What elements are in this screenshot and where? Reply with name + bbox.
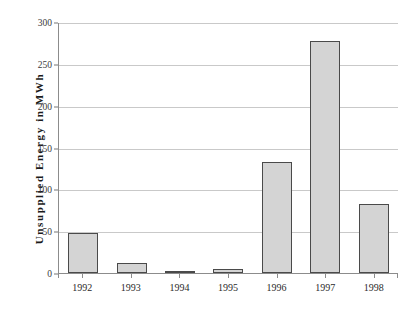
x-axis-tick-labels: 1992199319941995199619971998 [58, 282, 398, 300]
x-tick-mark [179, 274, 180, 278]
bar-slot [350, 23, 398, 273]
x-tick-slot [58, 274, 107, 279]
x-tick-mark [374, 274, 375, 278]
x-tick-mark [58, 274, 59, 278]
bar[interactable] [165, 271, 195, 273]
x-tick-slot [155, 274, 204, 279]
x-tick-mark [325, 274, 326, 278]
bar-slot [59, 23, 107, 273]
x-axis-tick-marks [58, 274, 398, 279]
bar[interactable] [359, 204, 389, 273]
bar-slot [156, 23, 204, 273]
bar-slot [204, 23, 252, 273]
bar-series [59, 23, 398, 273]
x-tick-mark [228, 274, 229, 278]
y-tick-label: 250 [38, 60, 52, 70]
bar[interactable] [213, 269, 243, 273]
bar-slot [301, 23, 349, 273]
bar[interactable] [68, 233, 98, 273]
x-tick-label: 1995 [204, 282, 253, 300]
x-tick-label: 1993 [107, 282, 156, 300]
x-tick-mark [131, 274, 132, 278]
bar[interactable] [262, 162, 292, 273]
y-axis-tick-labels: 050100150200250300 [26, 23, 58, 274]
y-tick-label: 300 [38, 18, 52, 28]
x-tick-slot [107, 274, 156, 279]
x-tick-mark [277, 274, 278, 278]
plot-area [58, 23, 398, 274]
x-tick-label: 1992 [58, 282, 107, 300]
y-tick-label: 0 [47, 269, 52, 279]
x-tick-label: 1998 [349, 282, 398, 300]
x-tick-mark [82, 274, 83, 278]
bar-slot [107, 23, 155, 273]
y-tick-label: 150 [38, 144, 52, 154]
bar-chart: Unsupplied Energy in MWh 050100150200250… [0, 0, 408, 317]
x-tick-slot [252, 274, 301, 279]
bar-slot [253, 23, 301, 273]
x-tick-label: 1997 [301, 282, 350, 300]
x-tick-label: 1994 [155, 282, 204, 300]
x-tick-label: 1996 [252, 282, 301, 300]
y-tick-label: 100 [38, 185, 52, 195]
bar[interactable] [310, 41, 340, 273]
y-tick-label: 50 [43, 227, 53, 237]
y-tick-label: 200 [38, 102, 52, 112]
x-tick-mark [397, 274, 398, 278]
x-tick-slot [349, 274, 398, 279]
x-tick-slot [204, 274, 253, 279]
bar[interactable] [117, 263, 147, 273]
x-tick-slot [301, 274, 350, 279]
